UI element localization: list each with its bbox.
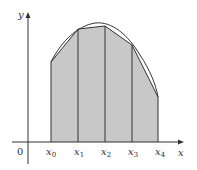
x-axis-arrow-icon bbox=[178, 140, 184, 145]
label-x0: x0 bbox=[46, 146, 56, 159]
label-x1: x1 bbox=[74, 146, 84, 159]
y-axis-label: y bbox=[17, 9, 24, 20]
label-x2: x2 bbox=[101, 146, 111, 159]
y-axis-arrow-icon bbox=[26, 12, 31, 18]
label-x4: x4 bbox=[155, 146, 166, 159]
trapezoid-diagram: y x 0 x0 x1 x2 x3 x4 bbox=[0, 0, 197, 170]
origin-label: 0 bbox=[17, 146, 23, 157]
label-x3: x3 bbox=[128, 146, 138, 159]
x-axis-label: x bbox=[178, 147, 184, 158]
